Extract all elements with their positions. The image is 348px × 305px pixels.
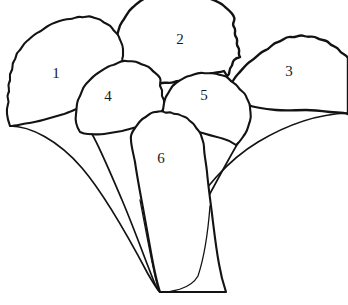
leaf-drawing-canvas [0,0,348,305]
leaf-diagram-figure: 1 2 3 4 5 6 [0,0,348,305]
